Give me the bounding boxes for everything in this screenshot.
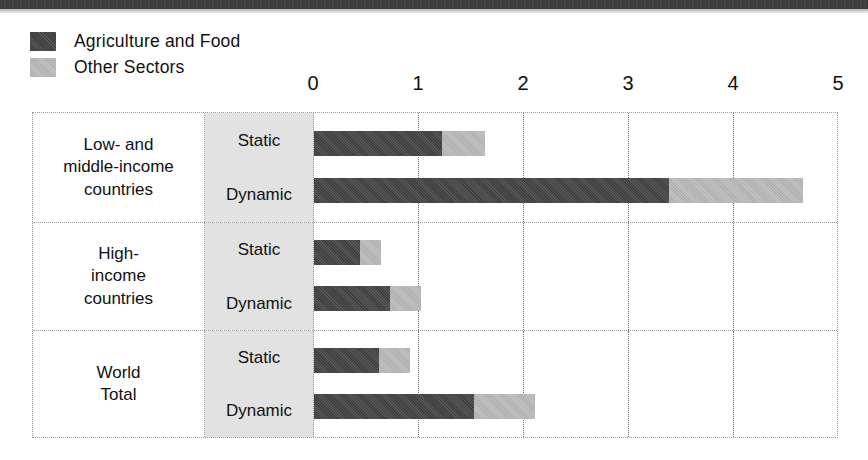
chart-group-row: World Total Static Dynamic xyxy=(33,331,837,437)
chart-plot-frame: Low- and middle-income countries Static … xyxy=(32,112,838,438)
gridline-3 xyxy=(628,223,629,330)
plot-area xyxy=(314,113,837,222)
gridline-1 xyxy=(418,331,419,437)
bar-segment-other-sectors xyxy=(669,178,803,203)
group-label-line: middle-income xyxy=(63,156,174,178)
bar-segment-agriculture-and-food xyxy=(314,286,390,311)
bar-segment-other-sectors xyxy=(390,286,421,311)
stacked-bar-static xyxy=(314,131,485,156)
x-tick-label-0: 0 xyxy=(307,72,318,95)
group-label-low-and-middle-income-countries: Low- and middle-income countries xyxy=(33,113,205,222)
group-label-high-income-countries: High- income countries xyxy=(33,223,205,330)
stacked-bar-static xyxy=(314,348,410,373)
gridline-1 xyxy=(418,113,419,222)
scan-artifact-fade xyxy=(0,9,868,14)
bar-segment-agriculture-and-food xyxy=(314,131,442,156)
bar-segment-agriculture-and-food xyxy=(314,394,474,419)
legend-label-agriculture-and-food: Agriculture and Food xyxy=(74,31,240,52)
gridline-2 xyxy=(523,331,524,437)
group-label-line: countries xyxy=(84,288,153,310)
scenario-label-static: Static xyxy=(205,132,313,149)
group-label-line: Low- and xyxy=(63,134,174,156)
stacked-bar-dynamic xyxy=(314,286,421,311)
gridline-4 xyxy=(733,223,734,330)
scenario-label-dynamic: Dynamic xyxy=(205,295,313,312)
legend-item-agriculture-and-food: Agriculture and Food xyxy=(30,28,240,54)
scan-artifact-band xyxy=(0,0,868,9)
bar-segment-agriculture-and-food xyxy=(314,348,379,373)
group-label-line: countries xyxy=(63,179,174,201)
gridline-4 xyxy=(733,331,734,437)
group-label-world-total: World Total xyxy=(33,331,205,437)
bar-segment-other-sectors xyxy=(360,240,381,265)
scenario-label-static: Static xyxy=(205,241,313,258)
gridline-2 xyxy=(523,223,524,330)
x-tick-label-5: 5 xyxy=(832,72,843,95)
plot-area xyxy=(314,331,837,437)
bar-segment-agriculture-and-food xyxy=(314,178,669,203)
x-tick-label-4: 4 xyxy=(727,72,738,95)
stacked-bar-dynamic xyxy=(314,178,803,203)
scenario-label-dynamic: Dynamic xyxy=(205,402,313,419)
chart-group-row: Low- and middle-income countries Static … xyxy=(33,113,837,223)
x-tick-label-1: 1 xyxy=(412,72,423,95)
x-axis-tick-labels: 0 1 2 3 4 5 xyxy=(0,72,868,100)
gridline-2 xyxy=(523,113,524,222)
bar-segment-agriculture-and-food xyxy=(314,240,360,265)
plot-area xyxy=(314,223,837,330)
bar-segment-other-sectors xyxy=(379,348,410,373)
legend-swatch-agriculture-and-food xyxy=(30,32,56,51)
bar-segment-other-sectors xyxy=(442,131,485,156)
x-tick-label-3: 3 xyxy=(622,72,633,95)
gridline-4 xyxy=(733,113,734,222)
group-label-line: income xyxy=(84,265,153,287)
scenario-label-static: Static xyxy=(205,349,313,366)
group-label-line: High- xyxy=(84,243,153,265)
stacked-bar-static xyxy=(314,240,381,265)
x-tick-label-2: 2 xyxy=(517,72,528,95)
bar-segment-other-sectors xyxy=(474,394,535,419)
stacked-bar-dynamic xyxy=(314,394,535,419)
gridline-3 xyxy=(628,331,629,437)
group-label-line: Total xyxy=(96,384,140,406)
chart-group-row: High- income countries Static Dynamic xyxy=(33,223,837,331)
gridline-3 xyxy=(628,113,629,222)
gridline-1 xyxy=(418,223,419,330)
group-label-line: World xyxy=(96,362,140,384)
scenario-label-column: Static Dynamic xyxy=(205,331,314,437)
scenario-label-dynamic: Dynamic xyxy=(205,186,313,203)
scenario-label-column: Static Dynamic xyxy=(205,223,314,330)
scenario-label-column: Static Dynamic xyxy=(205,113,314,222)
